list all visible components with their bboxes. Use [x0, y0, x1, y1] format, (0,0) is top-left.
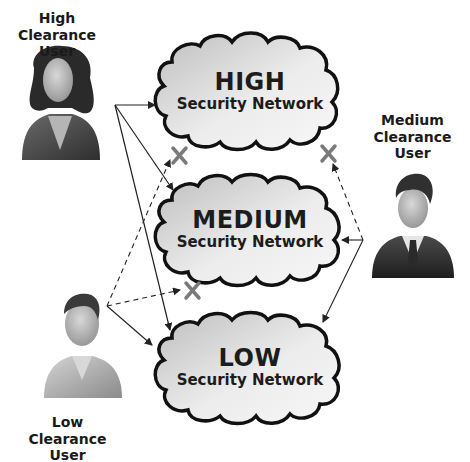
user-role: Clearance User	[10, 431, 125, 462]
deny-x-icon	[322, 146, 335, 161]
high-clearance-user-label: High Clearance User	[2, 10, 112, 60]
medium-clearance-user-label: Medium Clearance User	[355, 112, 470, 162]
network-subtitle: Security Network	[170, 371, 330, 389]
user-level: High	[2, 10, 112, 27]
network-level: HIGH	[170, 70, 330, 95]
deny-x-icon	[186, 283, 199, 298]
high-clearance-user-avatar	[22, 46, 100, 160]
high-network-label: HIGH Security Network	[170, 70, 330, 113]
user-role: Clearance User	[2, 27, 112, 60]
user-level: Medium	[355, 112, 470, 129]
network-subtitle: Security Network	[170, 233, 330, 251]
medium-clearance-user-avatar	[372, 174, 454, 278]
network-subtitle: Security Network	[170, 95, 330, 113]
low-network-label: LOW Security Network	[170, 346, 330, 389]
network-level: LOW	[170, 346, 330, 371]
network-level: MEDIUM	[170, 208, 330, 233]
user-role: Clearance User	[355, 129, 470, 162]
medium-network-label: MEDIUM Security Network	[170, 208, 330, 251]
low-clearance-user-label: Low Clearance User	[10, 414, 125, 462]
user-level: Low	[10, 414, 125, 431]
deny-x-icon	[173, 148, 186, 163]
